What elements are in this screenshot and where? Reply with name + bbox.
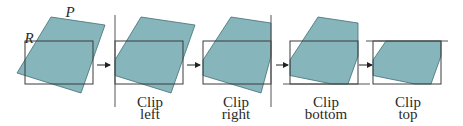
caption-line2: left	[128, 108, 172, 120]
polygon-p	[17, 17, 105, 93]
caption-line2: top	[386, 108, 430, 120]
caption-clip-top: Clip top	[386, 96, 430, 120]
panel-original	[17, 17, 105, 93]
label-rectangle-r: R	[22, 32, 36, 44]
caption-line2: bottom	[300, 108, 352, 120]
caption-clip-bottom: Clip bottom	[300, 96, 352, 120]
polygon-clipped-bottom	[290, 17, 358, 84]
panel-clip-top	[366, 41, 448, 84]
polygon-clipped-top	[373, 41, 441, 84]
caption-line2: right	[214, 108, 258, 120]
caption-clip-left: Clip left	[128, 96, 172, 120]
panel-clip-bottom	[283, 17, 370, 84]
label-polygon-p: P	[63, 6, 77, 18]
caption-clip-right: Clip right	[214, 96, 258, 120]
polygon-clipped-right	[203, 17, 271, 93]
